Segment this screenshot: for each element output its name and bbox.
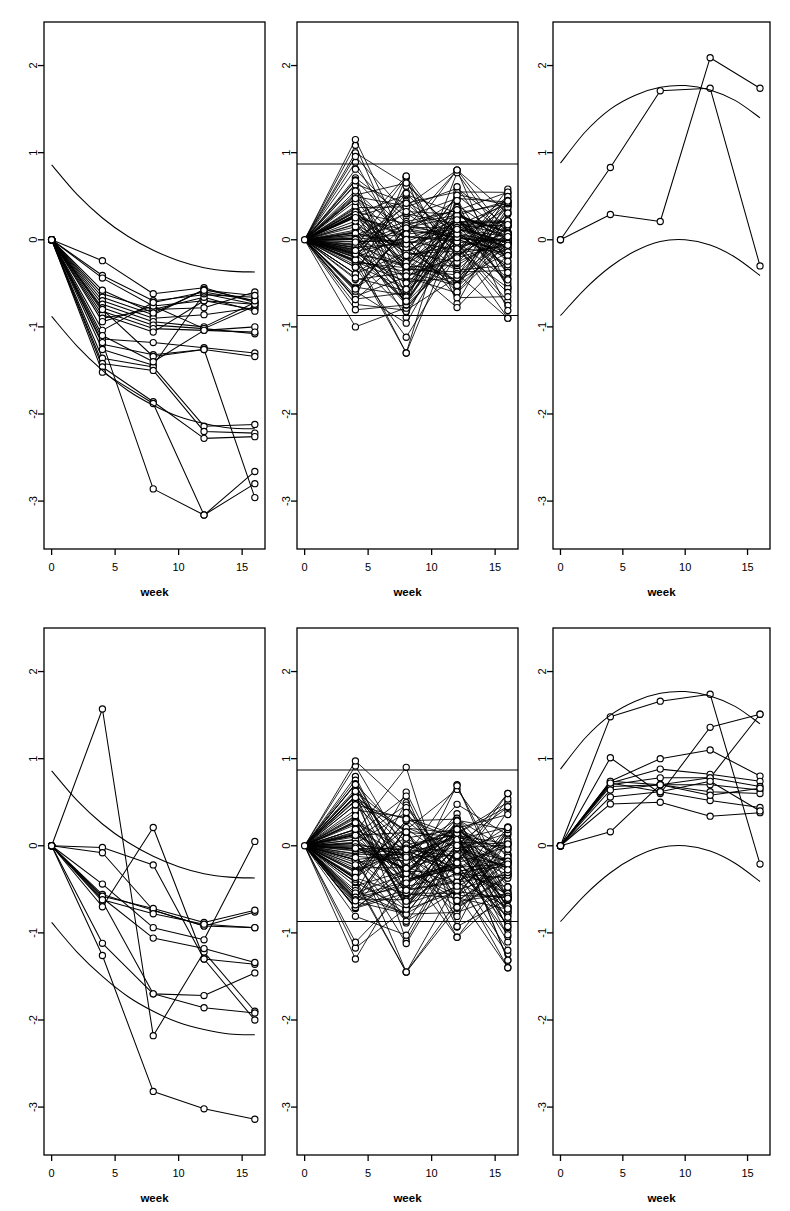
panel-bottom-middle: 210-1-2-3051015week xyxy=(267,622,526,1211)
data-point xyxy=(657,88,663,94)
data-point xyxy=(252,970,258,976)
y-tick-label: -1 xyxy=(27,322,39,332)
data-point xyxy=(505,234,511,240)
data-point xyxy=(352,215,358,221)
panel-top-left-svg: 210-1-2-3051015week xyxy=(14,16,273,611)
data-point xyxy=(201,937,207,943)
data-point xyxy=(454,913,460,919)
data-point xyxy=(49,843,55,849)
data-point xyxy=(201,1005,207,1011)
data-point xyxy=(403,816,409,822)
data-point xyxy=(352,188,358,194)
x-tick-label: 15 xyxy=(741,1167,753,1179)
y-tick-label: 1 xyxy=(280,150,292,156)
data-point xyxy=(99,850,105,856)
panel-top-left: 210-1-2-3051015week xyxy=(14,16,273,611)
data-point xyxy=(201,428,207,434)
data-point xyxy=(505,867,511,873)
data-point xyxy=(403,225,409,231)
data-point xyxy=(757,711,763,717)
y-tick-label: 0 xyxy=(536,237,548,243)
data-point xyxy=(352,939,358,945)
data-point xyxy=(252,481,258,487)
data-point xyxy=(454,217,460,223)
data-point xyxy=(454,246,460,252)
y-tick-label: -2 xyxy=(536,409,548,419)
x-tick-label: 0 xyxy=(302,1167,308,1179)
data-point xyxy=(757,861,763,867)
data-point xyxy=(505,932,511,938)
x-axis-title: week xyxy=(646,1192,676,1204)
y-tick-label: -3 xyxy=(536,1102,548,1112)
data-point xyxy=(302,237,308,243)
x-axis-title: week xyxy=(139,586,169,598)
data-point xyxy=(352,153,358,159)
data-point xyxy=(403,932,409,938)
data-point xyxy=(505,906,511,912)
data-point xyxy=(607,801,613,807)
data-point xyxy=(454,272,460,278)
data-point xyxy=(454,207,460,213)
data-point xyxy=(454,801,460,807)
x-tick-label: 5 xyxy=(620,1167,626,1179)
y-tick-label: -3 xyxy=(27,1102,39,1112)
data-point xyxy=(454,897,460,903)
y-tick-label: 1 xyxy=(27,756,39,762)
data-point xyxy=(352,196,358,202)
data-point xyxy=(505,884,511,890)
data-point xyxy=(352,854,358,860)
x-axis-title: week xyxy=(139,1192,169,1204)
y-tick-label: -2 xyxy=(280,409,292,419)
x-tick-label: 15 xyxy=(741,561,753,573)
data-point xyxy=(201,1106,207,1112)
data-point xyxy=(252,1010,258,1016)
data-point xyxy=(403,829,409,835)
y-tick-label: -2 xyxy=(536,1015,548,1025)
data-point xyxy=(201,305,207,311)
data-point xyxy=(454,826,460,832)
y-tick-label: -1 xyxy=(536,928,548,938)
data-point xyxy=(505,923,511,929)
x-tick-label: 10 xyxy=(426,1167,438,1179)
data-point xyxy=(49,237,55,243)
data-point xyxy=(707,747,713,753)
data-point xyxy=(505,895,511,901)
data-point xyxy=(657,218,663,224)
data-point xyxy=(352,898,358,904)
panel-top-middle-svg: 210-1-2-3051015week xyxy=(267,16,526,611)
data-point xyxy=(454,167,460,173)
data-point xyxy=(505,790,511,796)
data-point xyxy=(505,914,511,920)
y-tick-label: -3 xyxy=(27,496,39,506)
data-point xyxy=(403,286,409,292)
data-point xyxy=(505,242,511,248)
data-point xyxy=(454,197,460,203)
data-point xyxy=(505,824,511,830)
data-point xyxy=(201,287,207,293)
panel-top-right: 210-1-2-3051015week xyxy=(523,16,778,611)
data-point xyxy=(505,841,511,847)
data-point xyxy=(707,792,713,798)
data-point xyxy=(352,874,358,880)
data-point xyxy=(201,956,207,962)
data-point xyxy=(403,273,409,279)
data-point xyxy=(252,959,258,965)
x-axis-title: week xyxy=(392,586,422,598)
x-tick-label: 5 xyxy=(365,561,371,573)
y-tick-label: 1 xyxy=(27,150,39,156)
data-point xyxy=(454,852,460,858)
data-point xyxy=(252,353,258,359)
data-point xyxy=(99,287,105,293)
data-point xyxy=(201,327,207,333)
x-tick-label: 15 xyxy=(236,561,248,573)
y-tick-label: 2 xyxy=(27,668,39,674)
data-point xyxy=(99,940,105,946)
y-tick-label: -1 xyxy=(27,928,39,938)
data-point xyxy=(352,832,358,838)
data-point xyxy=(403,887,409,893)
data-point xyxy=(352,239,358,245)
data-point xyxy=(607,755,613,761)
data-point xyxy=(505,198,511,204)
y-tick-label: -1 xyxy=(280,322,292,332)
x-axis-title: week xyxy=(392,1192,422,1204)
